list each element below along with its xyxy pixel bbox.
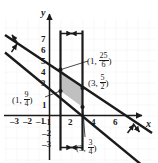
paren-close: )	[106, 78, 109, 88]
point-label-1-25-6: (1, 256)	[87, 52, 112, 69]
y-tick-neg3: –3	[42, 140, 51, 149]
point-label-1-9-4: (1, 94)	[12, 91, 33, 108]
y-tick-1: 1	[42, 101, 47, 110]
fraction-denominator: 6	[99, 61, 109, 69]
x-tick-neg1: –1	[36, 117, 45, 126]
y-tick-6: 6	[41, 46, 46, 55]
x-tick-6: 6	[113, 118, 118, 127]
x-tick-4: 4	[91, 118, 96, 127]
y-tick-neg2: –2	[42, 129, 51, 138]
y-axis-label: y	[41, 8, 45, 18]
point-label-3-3-4: (3, 34)	[76, 139, 97, 156]
paren-close: )	[109, 56, 112, 66]
paren-close: )	[94, 143, 97, 153]
paren-close: )	[30, 95, 33, 105]
y-tick-7: 7	[41, 35, 46, 44]
x-axis-label: x	[146, 119, 151, 129]
fraction-25-6: 256	[99, 52, 109, 69]
point-label-3-5-2: (3, 52)	[88, 74, 109, 91]
y-tick-3: 3	[41, 79, 46, 88]
graph-figure: y x 7 6 5 4 3 1 –1 –2 –3 –3 –2 –1 2 4 6 …	[0, 0, 158, 163]
x-tick-neg2: –2	[23, 117, 32, 126]
x-tick-2: 2	[68, 118, 73, 127]
y-tick-5: 5	[41, 57, 46, 66]
y-tick-4: 4	[41, 68, 46, 77]
x-tick-neg3: –3	[10, 117, 19, 126]
